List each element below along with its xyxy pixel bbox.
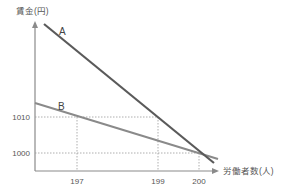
- line-b-label: B: [58, 101, 65, 112]
- line-a-label: A: [59, 26, 66, 37]
- x-tick-200: 200: [192, 177, 206, 186]
- x-axis-arrow-icon: [212, 168, 219, 174]
- x-tick-197: 197: [70, 177, 84, 186]
- x-tick-199: 199: [151, 177, 165, 186]
- line-a: [44, 24, 214, 163]
- y-axis-title: 賃金(円): [16, 6, 49, 16]
- x-axis-title: 労働者数(人): [223, 166, 274, 176]
- y-tick-1010: 1010: [12, 113, 30, 122]
- y-axis-arrow-icon: [32, 21, 38, 28]
- y-tick-1000: 1000: [12, 149, 30, 158]
- chart: A B 賃金(円) 労働者数(人) 1010 1000 197 199 200: [0, 0, 283, 195]
